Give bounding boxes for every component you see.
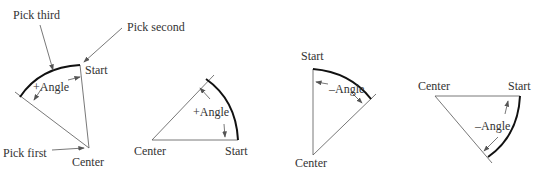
pick-second-label: Pick second: [127, 20, 185, 34]
panel-negative-angle-horizontal: Center Start –Angle: [418, 79, 531, 163]
angle-label: –Angle: [474, 119, 510, 133]
pick-third-label: Pick third: [13, 8, 60, 22]
angle-arrow-start: [68, 77, 80, 80]
center-label: Center: [72, 155, 104, 169]
start-label: Start: [225, 144, 248, 158]
angle-arrow-start: [505, 101, 508, 114]
start-radius-line: [80, 65, 89, 148]
center-label: Center: [295, 156, 327, 170]
pick-second-arrow: [84, 28, 122, 62]
angle-arrow-start: [316, 82, 328, 84]
center-label: Center: [418, 79, 450, 93]
arc-angle-diagram: Pick third Pick second Pick first Start …: [0, 0, 537, 177]
pick-first-label: Pick first: [3, 146, 47, 160]
angle-label: +Angle: [33, 80, 69, 94]
pick-first-arrow: [52, 148, 84, 150]
start-label: Start: [301, 49, 324, 63]
center-label: Center: [134, 144, 166, 158]
panel-negative-angle-vertical: Start –Angle Center: [295, 49, 376, 170]
angle-label: +Angle: [193, 105, 229, 119]
start-label: Start: [508, 79, 531, 93]
angle-arrow-end: [484, 137, 498, 151]
angle-arrow-end: [200, 88, 210, 99]
angle-label: –Angle: [328, 82, 364, 96]
end-radius-line: [313, 94, 376, 155]
pick-third-arrow: [40, 25, 53, 70]
panel-positive-angle: +Angle Center Start: [134, 75, 248, 158]
start-label: Start: [85, 63, 108, 77]
end-radius-line: [15, 92, 89, 148]
angle-arrow-start: [224, 124, 225, 137]
